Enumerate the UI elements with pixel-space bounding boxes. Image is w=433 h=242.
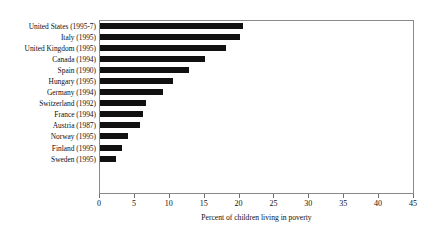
bar-row: [100, 109, 414, 120]
bar-row: [100, 54, 414, 65]
category-label: Canada (1994): [0, 54, 96, 65]
tick-label: 35: [331, 199, 355, 209]
bar: [100, 89, 163, 95]
bar-row: [100, 120, 414, 131]
tick-mark: [308, 194, 309, 198]
tick-label: 20: [227, 199, 251, 209]
tick-mark: [134, 194, 135, 198]
category-label: Hungary (1995): [0, 76, 96, 87]
bar: [100, 100, 146, 106]
category-label: Austria (1987): [0, 120, 96, 131]
tick-mark: [169, 194, 170, 198]
poverty-bar-chart: United States (1995-7)Italy (1995)United…: [0, 0, 433, 242]
tick-mark: [204, 194, 205, 198]
tick-mark: [343, 194, 344, 198]
tick-label: 40: [366, 199, 390, 209]
bar: [100, 34, 240, 40]
category-label: Spain (1990): [0, 65, 96, 76]
category-label: Switzerland (1992): [0, 98, 96, 109]
category-label: Finland (1995): [0, 143, 96, 154]
category-label: Sweden (1995): [0, 154, 96, 165]
category-label: Norway (1995): [0, 131, 96, 142]
tick-mark: [413, 194, 414, 198]
tick-label: 30: [296, 199, 320, 209]
x-axis-title: Percent of children living in poverty: [99, 213, 414, 222]
bar-row: [100, 76, 414, 87]
category-label: Italy (1995): [0, 32, 96, 43]
bar-row: [100, 154, 414, 165]
bar: [100, 67, 189, 73]
bar: [100, 45, 226, 51]
bar: [100, 56, 205, 62]
category-label: Germany (1994): [0, 87, 96, 98]
tick-mark: [99, 194, 100, 198]
category-axis-labels: United States (1995-7)Italy (1995)United…: [0, 21, 96, 193]
bar-row: [100, 98, 414, 109]
category-label: United States (1995-7): [0, 21, 96, 32]
bar-row: [100, 131, 414, 142]
tick-mark: [239, 194, 240, 198]
bar: [100, 156, 116, 162]
tick-label: 15: [192, 199, 216, 209]
bar-row: [100, 65, 414, 76]
tick-mark: [378, 194, 379, 198]
tick-label: 25: [261, 199, 285, 209]
bar-row: [100, 32, 414, 43]
bar-row: [100, 143, 414, 154]
bar: [100, 23, 243, 29]
bar-row: [100, 21, 414, 32]
tick-label: 0: [87, 199, 111, 209]
tick-label: 45: [401, 199, 425, 209]
x-axis-tick-labels: 051015202530354045: [0, 199, 433, 211]
bar-row: [100, 43, 414, 54]
bar-row: [100, 87, 414, 98]
bar: [100, 78, 173, 84]
tick-label: 10: [157, 199, 181, 209]
bar: [100, 122, 140, 128]
bar: [100, 111, 143, 117]
category-label: United Kingdom (1995): [0, 43, 96, 54]
tick-mark: [273, 194, 274, 198]
category-label: France (1994): [0, 109, 96, 120]
bar: [100, 133, 128, 139]
tick-label: 5: [122, 199, 146, 209]
bars-layer: [100, 21, 414, 193]
bar: [100, 145, 122, 151]
